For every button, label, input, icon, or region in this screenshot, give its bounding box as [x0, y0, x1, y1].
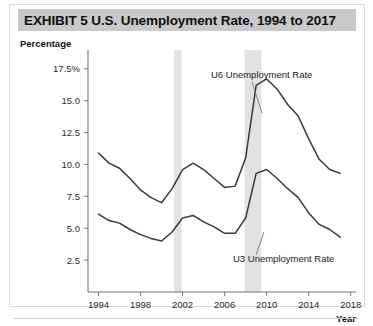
y-tick-label-group: 2.55.07.510.012.515.017.5%: [53, 63, 80, 265]
x-tick-label: 2014: [298, 299, 319, 310]
series-line-u6: [99, 79, 341, 203]
x-tick-label: 2010: [256, 299, 277, 310]
unemployment-line-chart: 2.55.07.510.012.515.017.5% 1994199820022…: [0, 0, 373, 326]
series-label-u6: U6 Unemployment Rate: [211, 69, 312, 80]
x-tick-label: 1994: [88, 299, 109, 310]
y-tick-label: 10.0: [62, 159, 81, 170]
chart-plot-area: 2.55.07.510.012.515.017.5% 1994199820022…: [0, 0, 373, 326]
y-tick-label: 7.5: [67, 191, 80, 202]
series-label-u3: U3 Unemployment Rate: [233, 253, 334, 264]
y-axis-title: Percentage: [20, 38, 71, 49]
x-tick-label: 2006: [214, 299, 235, 310]
series-line-group: [99, 79, 341, 241]
y-tick-label: 2.5: [67, 255, 80, 266]
x-tick-label: 2002: [172, 299, 193, 310]
exhibit-figure: EXHIBIT 5 U.S. Unemployment Rate, 1994 t…: [0, 0, 373, 326]
y-tick-label: 17.5%: [53, 63, 80, 74]
recession-2001: [174, 50, 181, 292]
y-tick-label: 15.0: [62, 95, 81, 106]
y-tick-label: 12.5: [62, 127, 81, 138]
series-line-u3: [99, 170, 341, 241]
x-tick-label: 1998: [130, 299, 151, 310]
y-tick-label: 5.0: [67, 223, 80, 234]
x-tick-label: 2018: [340, 299, 361, 310]
footer-divider: [14, 318, 360, 319]
x-tick-label-group: 1994199820022006201020142018: [88, 299, 361, 310]
